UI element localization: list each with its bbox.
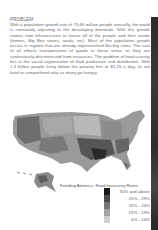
- page-edge-strip: [151, 17, 158, 230]
- legend-swatch: [104, 202, 110, 209]
- legend-label: 30% and above: [119, 189, 150, 194]
- body-paragraph: With a population growth rate of 75-80 m…: [10, 22, 150, 75]
- legend-label: 25% - 29%: [129, 196, 150, 201]
- legend-item: 15% - 19%: [104, 209, 150, 216]
- legend-label: 4% - 14%: [131, 217, 150, 222]
- legend-item: 20% - 24%: [104, 202, 150, 209]
- legend-label: 15% - 19%: [129, 210, 150, 215]
- map-legend: 30% and above 25% - 29% 20% - 24% 15% - …: [104, 188, 150, 223]
- legend-item: 4% - 14%: [104, 216, 150, 223]
- legend-swatch: [104, 209, 110, 216]
- alaska-inset: [32, 172, 58, 194]
- legend-swatch: [104, 188, 110, 195]
- legend-swatch: [104, 216, 110, 223]
- legend-item: 25% - 29%: [104, 195, 150, 202]
- food-insecurity-map: [11, 110, 149, 176]
- legend-item: 30% and above: [104, 188, 150, 195]
- legend-label: 20% - 24%: [129, 203, 150, 208]
- legend-swatch: [104, 195, 110, 202]
